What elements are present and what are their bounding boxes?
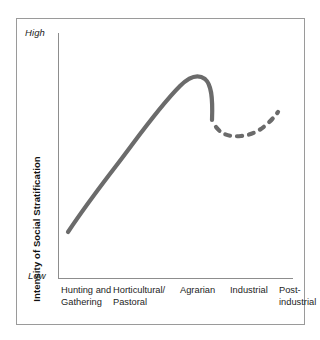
x-axis-labels: Hunting and Gathering Horticultural/ Pas… [58, 285, 305, 321]
y-axis-line [58, 33, 59, 279]
x-label-post-industrial: Post- industrial [279, 285, 316, 308]
figure-container: High Low Intensity of Social Stratificat… [0, 0, 320, 340]
x-label-agrarian: Agrarian [180, 285, 215, 297]
x-label-line2: Gathering [61, 297, 111, 309]
x-label-horticultural-pastoral: Horticultural/ Pastoral [113, 285, 165, 308]
x-label-line1: Industrial [230, 285, 268, 295]
x-label-line1: Horticultural/ [113, 285, 165, 295]
x-label-line1: Hunting and [61, 285, 111, 295]
y-axis-title: Intensity of Social Stratification [31, 106, 45, 340]
x-label-line2: industrial [279, 297, 316, 309]
x-label-line2: Pastoral [113, 297, 165, 309]
x-label-line1: Post- [279, 285, 301, 295]
x-label-industrial: Industrial [230, 285, 268, 297]
y-axis-high-label: High [25, 27, 45, 38]
x-label-line1: Agrarian [180, 285, 215, 295]
x-label-hunting-and-gathering: Hunting and Gathering [61, 285, 111, 308]
x-axis-line [58, 278, 293, 279]
